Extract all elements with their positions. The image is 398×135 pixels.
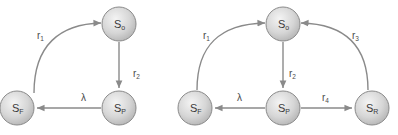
node-s-f: SF: [0, 91, 34, 125]
state-diagram-canvas: So SP SF r1 r2 λ So SF: [0, 0, 398, 135]
node-s-o: So: [102, 7, 136, 41]
edge-sf-to-so: [197, 23, 265, 90]
edge-label-r1: r1: [37, 30, 44, 42]
node-s-o: So: [266, 7, 300, 41]
edge-label-r2: r2: [133, 68, 140, 80]
edge-sf-to-so: [34, 23, 101, 93]
edge-label-r2: r2: [289, 68, 296, 80]
edge-label-lambda: λ: [237, 92, 242, 103]
edge-label-r4: r4: [322, 92, 329, 104]
edge-label-r1: r1: [203, 30, 210, 42]
node-s-p: SP: [266, 91, 300, 125]
edge-label-r3: r3: [352, 30, 359, 42]
node-s-r: SR: [355, 91, 389, 125]
three-state-diagram: So SP SF r1 r2 λ: [0, 7, 140, 125]
edge-sr-to-so: [301, 23, 368, 90]
node-s-p: SP: [102, 91, 136, 125]
four-state-diagram: So SF SP SR r1 r3 r2 λ r4: [178, 7, 389, 125]
edge-label-lambda: λ: [81, 92, 86, 103]
node-s-f: SF: [178, 91, 212, 125]
